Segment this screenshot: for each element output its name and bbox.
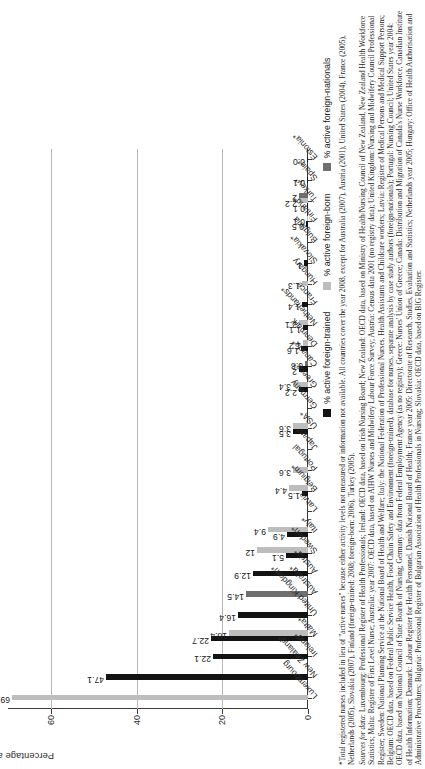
bar-group: 0.50.1 xyxy=(8,211,308,232)
bar-group: 20.8 xyxy=(8,356,308,377)
bar-group: 0.12.22 xyxy=(8,190,308,211)
bar-group: 1.12.1 xyxy=(8,315,308,336)
legend-item-foreign-trained: % active foreign-trained xyxy=(322,312,332,417)
bar-group: 0.1 xyxy=(8,170,308,191)
bar-born xyxy=(12,695,308,700)
bar-group: 16.4 xyxy=(8,604,308,625)
bar-value-label: 12.9 xyxy=(234,571,251,581)
legend-label-foreign-born: % active foreign-born xyxy=(322,193,332,276)
bar-group: 1.3 xyxy=(8,273,308,294)
bar-group: 3.6 xyxy=(8,460,308,481)
bar-group: 22.1 xyxy=(8,646,308,667)
sources-label: Sources for data: xyxy=(358,714,367,765)
sources-text: Luxembourg: Professional Register of Hea… xyxy=(358,11,423,765)
legend-item-foreign-nationals: % active foreign-nationals xyxy=(322,58,332,172)
y-axis-title: Percentage active nurses among all activ… xyxy=(0,751,54,761)
bar-group: 1.54.4 xyxy=(8,480,308,501)
y-tick-label: 60 xyxy=(46,715,56,739)
bar-group xyxy=(8,232,308,253)
bar-group xyxy=(8,397,308,418)
bar-value-label: 47.1 xyxy=(87,675,104,685)
bar-value-label: 5.1 xyxy=(272,553,284,563)
y-tick-label: 40 xyxy=(132,715,142,739)
bar-group: 1 xyxy=(8,253,308,274)
bar-value-label: 16.4 xyxy=(219,613,236,623)
y-tick xyxy=(51,709,52,714)
bar-value-label: 22.7 xyxy=(192,636,209,646)
bar-group: 3.53.6 xyxy=(8,418,308,439)
bar-group: 22.718.4 xyxy=(8,625,308,646)
y-tick-label: 20 xyxy=(217,715,227,739)
bar-group: 14.5 xyxy=(8,584,308,605)
plot-area: Percentage active nurses among all activ… xyxy=(8,149,308,709)
bar-group: 47.1 xyxy=(8,667,308,688)
bar-group: 4.99.4 xyxy=(8,522,308,543)
bar-group: 1.4 xyxy=(8,294,308,315)
bar-value-label: 3.6 xyxy=(279,424,291,434)
y-tick-label: 0 xyxy=(303,715,313,739)
bar-group: 0.0 xyxy=(8,149,308,170)
bar-group xyxy=(8,439,308,460)
bar-value-label: 14.5 xyxy=(227,592,244,602)
bar-group: 2.23.4 xyxy=(8,377,308,398)
legend-swatch-foreign-trained xyxy=(323,409,331,417)
bar-trained xyxy=(106,674,308,679)
bar-value-label: 69.1 xyxy=(0,695,10,705)
y-tick xyxy=(222,709,223,714)
bar-value-label: 9.4 xyxy=(254,527,266,537)
bar-group: 5.112 xyxy=(8,542,308,563)
bar-value-label: 4.9 xyxy=(273,532,285,542)
legend-label-foreign-trained: % active foreign-trained xyxy=(322,312,332,404)
bar-value-label: 12 xyxy=(245,548,255,558)
bar-value-label: 4.4 xyxy=(275,486,287,496)
bar-group: 12.9 xyxy=(8,563,308,584)
chart-legend: % active foreign-trained % active foreig… xyxy=(322,58,332,417)
legend-swatch-foreign-born xyxy=(323,282,331,290)
y-tick xyxy=(308,709,309,714)
bar-value-label: 22.1 xyxy=(195,654,212,664)
bar-group: 69.1 xyxy=(8,687,308,708)
bar-group xyxy=(8,501,308,522)
legend-swatch-foreign-nationals xyxy=(323,163,331,171)
figure-footnote: *Total registered nurses included in lie… xyxy=(338,6,357,765)
figure-notes: *Total registered nurses included in lie… xyxy=(338,0,425,769)
legend-label-foreign-nationals: % active foreign-nationals xyxy=(322,58,332,159)
bar-group: 1.61.2 xyxy=(8,335,308,356)
legend-item-foreign-born: % active foreign-born xyxy=(322,193,332,289)
bar-value-label: 18.4 xyxy=(210,631,227,641)
figure-sources: Sources for data: Luxembourg: Profession… xyxy=(358,6,423,765)
bar-series-container: 69.147.122.122.718.416.414.512.95.1124.9… xyxy=(8,149,308,708)
bar-trained xyxy=(238,612,308,617)
y-tick xyxy=(137,709,138,714)
y-axis-line xyxy=(8,708,308,709)
